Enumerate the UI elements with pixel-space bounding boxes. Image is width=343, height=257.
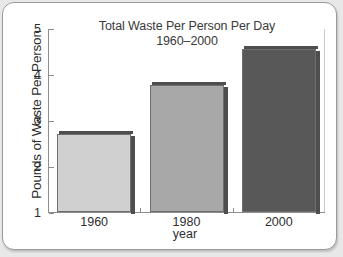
bar-face [150, 85, 224, 212]
y-tick-label: 3 [25, 115, 41, 128]
x-axis-line [48, 212, 325, 213]
y-tick-label: 4 [25, 69, 41, 82]
y-axis-tick-labels: 12345 [25, 3, 41, 251]
chart-figure-frame: Total Waste Per Person Per Day 1960–2000… [2, 2, 337, 250]
x-tick-mark [140, 208, 141, 212]
bar-shadow-right [131, 136, 135, 214]
bar [150, 85, 224, 212]
y-tick-mark [49, 213, 54, 214]
bar-face [242, 49, 316, 212]
x-tick-mark [233, 208, 234, 212]
y-tick-label: 5 [25, 23, 41, 36]
bar [57, 134, 131, 212]
bar [242, 49, 316, 212]
bar-face [57, 134, 131, 212]
y-tick-mark [49, 167, 54, 168]
chart-canvas: Total Waste Per Person Per Day 1960–2000… [3, 3, 338, 251]
y-tick-mark [49, 121, 54, 122]
bar-shadow-right [224, 87, 228, 214]
plot-area [48, 29, 325, 213]
y-tick-mark [49, 29, 54, 30]
x-axis-label: year [43, 227, 327, 241]
plot-right-edge [324, 29, 325, 213]
y-tick-label: 2 [25, 161, 41, 174]
y-tick-mark [49, 75, 54, 76]
bar-shadow-right [316, 51, 320, 214]
